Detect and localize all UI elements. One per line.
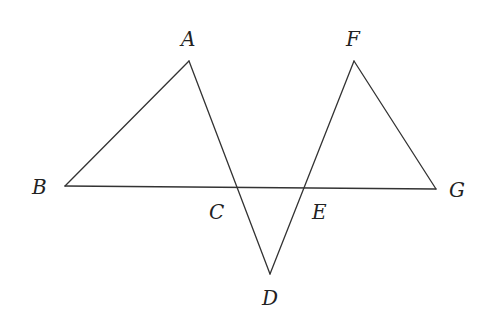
segment-AB — [65, 61, 189, 186]
label-E: E — [311, 200, 327, 224]
label-G: G — [449, 178, 465, 202]
segment-FG — [354, 61, 436, 189]
segments — [65, 61, 436, 274]
label-B: B — [31, 175, 47, 199]
segment-AD — [189, 61, 270, 274]
segment-BG — [65, 186, 436, 189]
label-A: A — [179, 27, 195, 51]
label-D: D — [261, 286, 278, 310]
segment-DF — [270, 61, 354, 274]
label-C: C — [209, 200, 224, 224]
point-labels: A B C D E F G — [31, 27, 465, 310]
geometry-diagram: A B C D E F G — [0, 0, 486, 328]
label-F: F — [345, 27, 361, 51]
